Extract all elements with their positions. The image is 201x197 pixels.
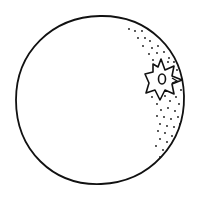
fruit-outline: [16, 16, 184, 184]
orange-drawing: [0, 0, 201, 197]
orange-illustration: [0, 0, 201, 197]
